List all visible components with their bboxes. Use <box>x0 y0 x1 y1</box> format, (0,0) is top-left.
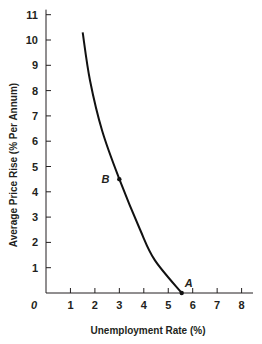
point-annotations: AB <box>101 173 192 295</box>
x-tick-label: 6 <box>190 299 196 311</box>
x-ticks: 12345678 <box>67 288 244 311</box>
y-tick-label: 1 <box>32 262 38 274</box>
phillips-curve-line <box>83 32 182 293</box>
x-tick-label: 4 <box>141 299 148 311</box>
point-a-label: A <box>184 277 193 289</box>
y-tick-label: 6 <box>32 135 38 147</box>
y-tick-label: 5 <box>32 161 38 173</box>
x-tick-label: 2 <box>92 299 98 311</box>
y-tick-label: 11 <box>26 9 38 21</box>
y-tick-label: 7 <box>32 110 38 122</box>
y-tick-label: 8 <box>32 85 38 97</box>
origin-label: 0 <box>31 299 38 311</box>
point-b-label: B <box>101 173 109 185</box>
x-tick-label: 7 <box>214 299 220 311</box>
y-tick-label: 3 <box>32 211 38 223</box>
point-a-marker <box>179 291 183 295</box>
x-tick-label: 5 <box>165 299 171 311</box>
y-tick-label: 9 <box>32 59 38 71</box>
y-axis-title: Average Price Rise (% Per Annum) <box>8 83 19 247</box>
point-b-marker <box>117 177 121 181</box>
phillips-curve-chart: 1234567891011 12345678 0 AB Unemployment… <box>0 0 262 344</box>
y-ticks: 1234567891011 <box>26 9 51 274</box>
x-axis-title: Unemployment Rate (%) <box>90 325 205 336</box>
x-axis: 12345678 <box>46 288 253 311</box>
x-tick-label: 3 <box>116 299 122 311</box>
y-tick-label: 2 <box>32 236 38 248</box>
y-tick-label: 4 <box>32 186 39 198</box>
y-tick-label: 10 <box>26 34 38 46</box>
x-tick-label: 8 <box>239 299 245 311</box>
y-axis: 1234567891011 <box>26 9 51 293</box>
x-tick-label: 1 <box>67 299 73 311</box>
